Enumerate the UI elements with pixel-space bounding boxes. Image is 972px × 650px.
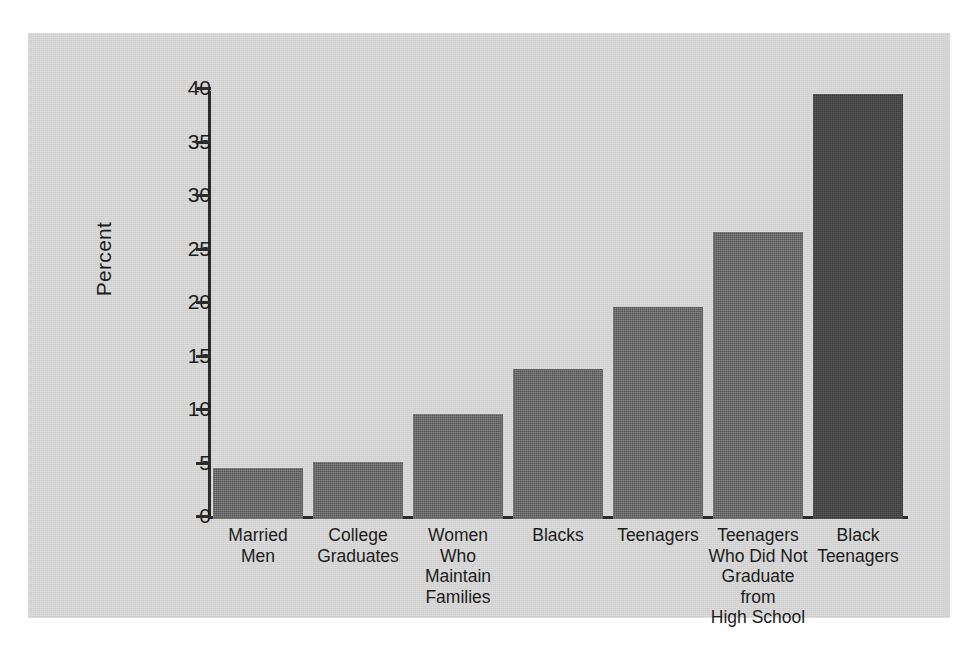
bar-slot[interactable] bbox=[413, 91, 503, 519]
bar-slot[interactable] bbox=[613, 91, 703, 519]
bar-series bbox=[208, 91, 908, 519]
category-label: Teenagers bbox=[608, 525, 708, 546]
bar[interactable] bbox=[313, 462, 403, 519]
chart-page: 0510152025303540 Percent Married MenColl… bbox=[0, 0, 972, 650]
category-label: College Graduates bbox=[308, 525, 408, 566]
bar-slot[interactable] bbox=[713, 91, 803, 519]
bar-slot[interactable] bbox=[513, 91, 603, 519]
category-label: Blacks bbox=[508, 525, 608, 546]
bar[interactable] bbox=[413, 414, 503, 519]
bar-slot[interactable] bbox=[313, 91, 403, 519]
bar[interactable] bbox=[713, 232, 803, 519]
x-axis-category-labels: Married MenCollege GraduatesWomen Who Ma… bbox=[208, 525, 908, 620]
y-axis-label: Percent bbox=[92, 179, 116, 339]
bar[interactable] bbox=[513, 369, 603, 519]
bar[interactable] bbox=[213, 468, 303, 519]
bar-slot[interactable] bbox=[813, 91, 903, 519]
bar[interactable] bbox=[613, 307, 703, 519]
category-label: Teenagers Who Did Not Graduate from High… bbox=[708, 525, 808, 628]
plot-area: 0510152025303540 Percent Married MenColl… bbox=[28, 33, 950, 618]
y-tick-mark bbox=[196, 87, 211, 90]
category-label: Black Teenagers bbox=[808, 525, 908, 566]
bar[interactable] bbox=[813, 94, 903, 519]
bar-slot[interactable] bbox=[213, 91, 303, 519]
category-label: Women Who Maintain Families bbox=[408, 525, 508, 607]
chart-panel: 0510152025303540 Percent Married MenColl… bbox=[28, 33, 950, 618]
category-label: Married Men bbox=[208, 525, 308, 566]
